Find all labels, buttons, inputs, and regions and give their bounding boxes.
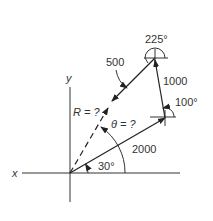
x-axis-label: x bbox=[11, 167, 18, 179]
vector-1000-label: 1000 bbox=[163, 75, 187, 87]
angle-arc-30 bbox=[86, 164, 88, 173]
angle-label-225: 225° bbox=[145, 33, 168, 45]
y-axis-label: y bbox=[65, 72, 73, 84]
angle-label-100: 100° bbox=[175, 96, 198, 108]
vector-500-label: 500 bbox=[106, 56, 124, 68]
resultant-label: R = ? bbox=[73, 106, 100, 118]
angle-label-30: 30° bbox=[98, 160, 115, 172]
vector-diagram: x y 30° θ = ? 2000 100° 1000 225° 500 R … bbox=[0, 0, 213, 221]
resultant-angle-label: θ = ? bbox=[111, 118, 137, 130]
vector-2000-label: 2000 bbox=[132, 143, 156, 155]
vector-1000 bbox=[155, 60, 165, 118]
leader-line-500 bbox=[116, 70, 127, 88]
